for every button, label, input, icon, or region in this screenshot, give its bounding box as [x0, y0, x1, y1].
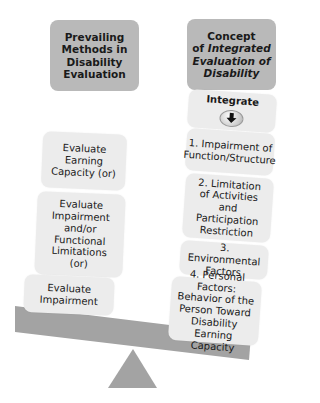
left-item-impairment-functional: Evaluate Impairment and/or Functional Li…: [34, 191, 126, 278]
right-header-line1: Concept: [207, 30, 255, 42]
down-arrow-icon: [219, 109, 244, 128]
fulcrum-triangle: [108, 349, 157, 388]
left-item-earning-capacity: Evaluate Earning Capacity (or): [41, 131, 127, 191]
right-item-impairment: 1. Impairment of Function/Structure: [185, 128, 276, 176]
left-header: Prevailing Methods in Disability Evaluat…: [50, 20, 139, 91]
left-header-text: Prevailing Methods in Disability Evaluat…: [54, 31, 135, 81]
integrate-label: Integrate: [206, 93, 260, 108]
right-item-activity-limitation: 2. Limitation of Activities and Particip…: [182, 173, 274, 243]
right-header: Concept of Integrated Evaluation of Disa…: [187, 19, 276, 90]
right-item-personal-factors: 4. Personal Factors: Behavior of the Per…: [168, 276, 262, 346]
left-item-impairment: Evaluate Impairment: [23, 274, 115, 316]
integrate-box: Integrate: [187, 89, 277, 133]
